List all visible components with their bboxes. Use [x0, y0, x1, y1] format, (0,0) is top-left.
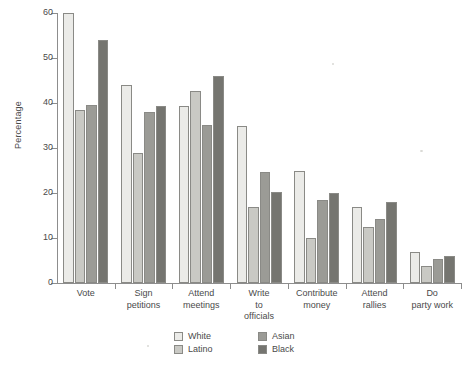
- y-tick-label: 20: [43, 187, 53, 197]
- bar: [202, 125, 213, 283]
- bar-group: [121, 13, 166, 283]
- bar: [75, 110, 86, 283]
- bar: [86, 105, 97, 283]
- legend-item: White: [174, 331, 211, 341]
- bar: [260, 172, 271, 283]
- legend-swatch: [174, 345, 183, 354]
- bar: [237, 126, 248, 284]
- legend-swatch: [258, 332, 267, 341]
- y-tick-label: 10: [43, 232, 53, 242]
- legend-item: Asian: [258, 331, 295, 341]
- bar: [63, 13, 74, 283]
- bar: [248, 207, 259, 284]
- bar: [133, 153, 144, 284]
- x-axis-label-line: Do: [395, 288, 468, 300]
- y-axis-line: [57, 13, 58, 283]
- bar: [433, 259, 444, 283]
- bar-group: [294, 13, 339, 283]
- y-tick-label: 0: [48, 277, 53, 287]
- legend-swatch: [258, 345, 267, 354]
- legend-item: Latino: [174, 344, 213, 354]
- bar: [98, 40, 109, 283]
- bar: [363, 227, 374, 283]
- y-tick-label: 30: [43, 142, 53, 152]
- bar: [444, 256, 455, 283]
- bar: [156, 106, 167, 283]
- legend-label: White: [188, 331, 211, 341]
- bar: [421, 266, 432, 283]
- scan-speck: [420, 150, 423, 152]
- x-axis-label: Doparty work: [395, 288, 468, 311]
- plot-area: 0102030405060: [57, 13, 461, 283]
- x-axis-label-line: party work: [395, 300, 468, 312]
- bar: [179, 106, 190, 283]
- bar-group: [179, 13, 224, 283]
- legend-label: Black: [272, 344, 294, 354]
- bar-group: [352, 13, 397, 283]
- bar: [352, 207, 363, 284]
- x-axis-labels: VoteSignpetitionsAttendmeetingsWritetoof…: [57, 288, 461, 334]
- x-axis-label-line: officials: [222, 311, 296, 323]
- scan-speck: [332, 63, 334, 65]
- bar-group: [237, 13, 282, 283]
- bar: [190, 91, 201, 283]
- bar: [294, 171, 305, 284]
- grouped-bar-chart: Percentage 0102030405060 VoteSignpetitio…: [0, 0, 468, 366]
- bar: [271, 192, 282, 283]
- bar: [144, 112, 155, 283]
- bar: [121, 85, 132, 283]
- bar-group: [63, 13, 108, 283]
- bar: [329, 193, 340, 283]
- x-axis-line: [57, 283, 461, 284]
- chart-legend: WhiteLatinoAsianBlack: [174, 331, 334, 359]
- y-axis-title: Percentage: [13, 80, 23, 170]
- legend-swatch: [174, 332, 183, 341]
- y-tick-label: 60: [43, 7, 53, 17]
- y-tick-label: 50: [43, 52, 53, 62]
- scan-speck: [147, 345, 149, 347]
- y-tick-label: 40: [43, 97, 53, 107]
- bar: [410, 252, 421, 284]
- bar: [317, 200, 328, 283]
- bar: [386, 202, 397, 283]
- bar-group: [410, 13, 455, 283]
- legend-item: Black: [258, 344, 294, 354]
- bar: [213, 76, 224, 283]
- bar: [306, 238, 317, 283]
- legend-label: Asian: [272, 331, 295, 341]
- legend-label: Latino: [188, 344, 213, 354]
- bar: [375, 219, 386, 283]
